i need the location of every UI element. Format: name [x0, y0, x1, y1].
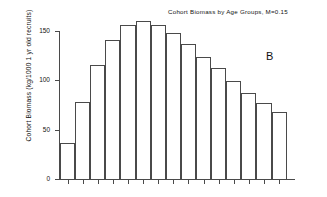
bar [166, 33, 181, 179]
bar [256, 103, 271, 179]
bar [75, 102, 90, 179]
bar [181, 44, 196, 179]
bar [196, 57, 211, 179]
bar [60, 143, 75, 179]
bar [272, 112, 287, 179]
bar [226, 81, 241, 179]
figure-canvas: Cohort Biomass by Age Groups, M=0.15 B C… [0, 0, 327, 197]
bar [151, 25, 166, 179]
bar-series [0, 0, 327, 197]
bar [90, 65, 105, 179]
bar [211, 68, 226, 179]
bar [136, 21, 151, 179]
bar [241, 93, 256, 179]
bar [105, 40, 120, 179]
bar [120, 25, 135, 179]
